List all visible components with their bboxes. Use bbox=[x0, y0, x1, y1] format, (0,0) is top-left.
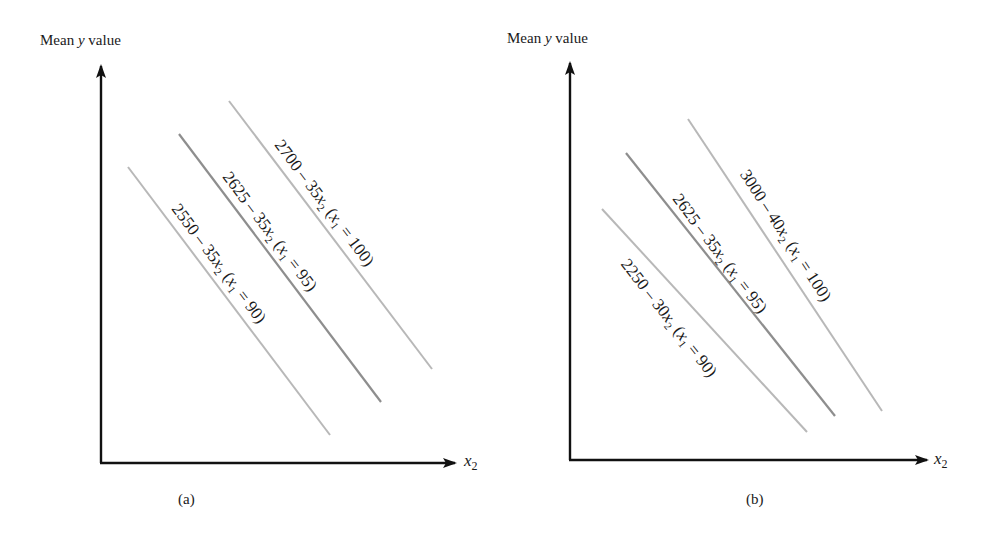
y-label-variable: y bbox=[545, 30, 552, 46]
panel-a-line-x1-90 bbox=[128, 167, 330, 435]
x-label-subscript: 2 bbox=[472, 459, 478, 473]
y-label-prefix: Mean bbox=[507, 30, 545, 46]
panel-a-y-axis-label: Mean y value bbox=[40, 32, 121, 49]
panel-a-x-axis-label: x2 bbox=[464, 451, 478, 474]
panel-b-y-axis-label: Mean y value bbox=[507, 30, 588, 47]
y-label-variable: y bbox=[78, 32, 85, 48]
x-label-variable: x bbox=[934, 449, 942, 468]
y-label-suffix: value bbox=[85, 32, 121, 48]
x-label-variable: x bbox=[464, 451, 472, 470]
figure-canvas bbox=[0, 0, 993, 541]
panel-b-caption: (b) bbox=[746, 491, 764, 508]
panel-b-x-axis-label: x2 bbox=[934, 449, 948, 472]
x-label-subscript: 2 bbox=[942, 457, 948, 471]
panel-a-caption: (a) bbox=[178, 491, 195, 508]
y-label-prefix: Mean bbox=[40, 32, 78, 48]
y-label-suffix: value bbox=[552, 30, 588, 46]
